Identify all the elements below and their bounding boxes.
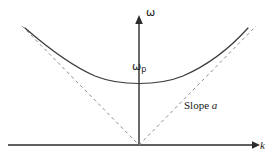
asymptote-left-line [22, 26, 139, 145]
plot-canvas [0, 0, 273, 161]
slope-prefix: Slope [184, 99, 209, 111]
plasma-frequency-label: ωp [132, 61, 146, 74]
dispersion-curve-path [25, 28, 248, 84]
k-axis-arrowhead [252, 141, 260, 149]
omega-p-subscript: p [141, 65, 146, 74]
dispersion-figure: ω k ωp Slope a [0, 0, 273, 161]
asymptote-right-line [139, 26, 256, 145]
omega-p-base: ω [132, 60, 141, 73]
slope-annotation-label: Slope a [184, 100, 217, 111]
omega-axis-arrowhead [135, 15, 143, 24]
k-axis-label: k [260, 140, 265, 151]
omega-axis-label: ω [146, 7, 155, 18]
slope-symbol: a [212, 99, 218, 111]
